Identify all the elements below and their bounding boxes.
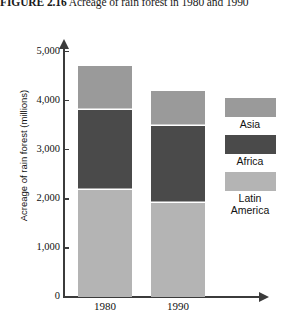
y-tick-mark [64, 149, 69, 151]
bar-1980[interactable] [78, 66, 132, 297]
bar-segment-africa[interactable] [151, 126, 205, 203]
chart-plot-area: Acreage of rain forest (millions) 5,000 … [0, 0, 284, 325]
y-axis-arrow-icon [59, 39, 69, 49]
x-tick-label-1980: 1980 [78, 300, 132, 312]
bar-segment-asia[interactable] [78, 66, 132, 110]
y-tick-label: 5,000 [18, 45, 60, 56]
legend-label-asia: Asia [219, 118, 281, 130]
x-tick-label-1990: 1990 [151, 300, 205, 312]
legend-item-asia[interactable]: Asia [219, 98, 281, 130]
y-tick-label: 1,000 [18, 241, 60, 252]
legend-swatch-latin-america [225, 172, 276, 191]
y-tick-mark [64, 51, 69, 53]
y-tick-mark [64, 198, 69, 200]
y-tick-label: 2,000 [18, 192, 60, 203]
bar-segment-africa[interactable] [78, 110, 132, 190]
legend-item-latin-america[interactable]: Latin America [219, 172, 281, 216]
legend-label-latin-america-line1: Latin [219, 192, 281, 204]
y-tick-mark [64, 247, 69, 249]
y-tick-label: 0 [18, 290, 60, 301]
y-tick-label: 3,000 [18, 143, 60, 154]
legend-label-africa: Africa [219, 155, 281, 167]
legend-swatch-asia [225, 98, 276, 117]
chart-legend: Asia Africa Latin America [219, 98, 281, 221]
bar-segment-latin-america[interactable] [78, 190, 132, 297]
bar-segment-latin-america[interactable] [151, 203, 205, 297]
y-tick-label: 4,000 [18, 94, 60, 105]
legend-item-africa[interactable]: Africa [219, 135, 281, 167]
y-tick-mark [64, 100, 69, 102]
legend-swatch-africa [225, 135, 276, 154]
bar-segment-asia[interactable] [151, 91, 205, 126]
bar-1990[interactable] [151, 91, 205, 297]
x-axis-arrow-icon [259, 292, 269, 302]
legend-label-latin-america-line2: America [219, 204, 281, 216]
y-axis-line [63, 48, 65, 297]
